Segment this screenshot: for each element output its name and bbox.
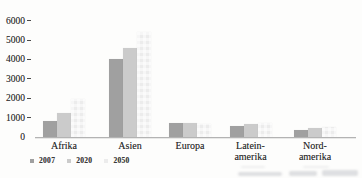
legend-label: 2050 bbox=[113, 156, 129, 165]
y-tick-value: 1000 bbox=[6, 113, 25, 123]
y-tick-value: 6000 bbox=[6, 16, 25, 26]
y-axis-tick-label: 4000 bbox=[0, 54, 31, 65]
legend-label: 2020 bbox=[76, 156, 92, 165]
caption-smudge bbox=[322, 170, 358, 176]
y-axis-tick-label: 1000 bbox=[0, 112, 31, 123]
tick-mark bbox=[27, 98, 31, 99]
scanned-population-bar-chart: 0100020003000400050006000 AfrikaAsienEur… bbox=[0, 0, 362, 178]
y-tick-value: 2000 bbox=[6, 93, 25, 103]
legend-entry-2007: 2007 bbox=[30, 156, 55, 165]
legend: 200720202050 bbox=[30, 156, 130, 165]
bar-afrika-2050 bbox=[71, 99, 85, 137]
bar-nordamerika-2050 bbox=[322, 127, 336, 137]
caption-smudge bbox=[303, 166, 329, 168]
legend-swatch-icon bbox=[30, 159, 34, 163]
bar-afrika-2007 bbox=[43, 121, 57, 137]
tick-mark bbox=[27, 117, 31, 118]
y-axis-tick-label: 6000 bbox=[0, 15, 31, 26]
bar-nordamerika-2007 bbox=[294, 130, 308, 137]
x-axis-label-line: amerika bbox=[287, 152, 343, 163]
bar-asien-2007 bbox=[109, 59, 123, 137]
bar-afrika-2020 bbox=[57, 113, 71, 137]
y-tick-value: 5000 bbox=[6, 35, 25, 45]
bar-europa-2050 bbox=[197, 124, 211, 137]
y-tick-value: 3000 bbox=[6, 74, 25, 84]
x-axis-label-nordamerika: Nord-amerika bbox=[287, 141, 343, 162]
x-axis-label-lateinamerika: Latein-amerika bbox=[223, 141, 279, 162]
tick-mark bbox=[27, 78, 31, 79]
bar-europa-2020 bbox=[183, 123, 197, 137]
legend-entry-2050: 2050 bbox=[104, 156, 129, 165]
y-tick-value: 0 bbox=[20, 132, 25, 142]
x-axis-label-line: Asien bbox=[102, 141, 158, 152]
legend-label: 2007 bbox=[39, 156, 55, 165]
bar-lateinamerika-2050 bbox=[258, 123, 272, 137]
legend-entry-2020: 2020 bbox=[67, 156, 92, 165]
y-tick-value: 4000 bbox=[6, 54, 25, 64]
legend-swatch-icon bbox=[104, 159, 108, 163]
caption-smudge bbox=[289, 171, 317, 176]
bar-lateinamerika-2020 bbox=[244, 124, 258, 137]
caption-smudge bbox=[238, 172, 282, 176]
y-axis-tick-label: 0 bbox=[0, 132, 31, 143]
tick-mark bbox=[27, 40, 31, 41]
bar-europa-2007 bbox=[169, 123, 183, 137]
x-axis-label-line: Afrika bbox=[36, 141, 92, 152]
x-axis-label-europa: Europa bbox=[162, 141, 218, 152]
bar-asien-2050 bbox=[137, 32, 151, 137]
x-axis-line bbox=[35, 137, 356, 138]
bar-asien-2020 bbox=[123, 48, 137, 137]
x-axis-label-line: amerika bbox=[223, 152, 279, 163]
x-axis-label-line: Europa bbox=[162, 141, 218, 152]
caption-smudge bbox=[241, 166, 265, 168]
tick-mark bbox=[27, 59, 31, 60]
x-axis-label-line: Latein- bbox=[223, 141, 279, 152]
legend-swatch-icon bbox=[67, 159, 71, 163]
x-axis-label-line: Nord- bbox=[287, 141, 343, 152]
x-axis-label-asien: Asien bbox=[102, 141, 158, 152]
tick-mark bbox=[27, 20, 31, 21]
bar-lateinamerika-2007 bbox=[230, 126, 244, 137]
x-axis-label-afrika: Afrika bbox=[36, 141, 92, 152]
y-axis-tick-label: 3000 bbox=[0, 73, 31, 84]
bar-nordamerika-2020 bbox=[308, 128, 322, 137]
y-axis-tick-label: 5000 bbox=[0, 35, 31, 46]
y-axis-tick-label: 2000 bbox=[0, 93, 31, 104]
